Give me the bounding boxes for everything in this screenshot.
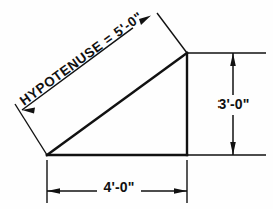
horizontal-arrowhead-left (47, 188, 60, 194)
vertical-arrowhead-bottom (230, 142, 236, 155)
vertical-dimension-label-front: 3'-0" (218, 96, 249, 112)
hypotenuse-label-group: HYPOTENUSE = 5'-0" (17, 9, 146, 109)
vertical-arrowhead-top (230, 53, 236, 66)
horizontal-dimension-label: 4'-0" (103, 179, 134, 195)
horizontal-arrowhead-right (174, 188, 187, 194)
triangle-diagram-svg: HYPOTENUSE = 5'-0" 3'-0" 3'-0" 4'-0" (0, 0, 273, 209)
hypotenuse-extension-line-right (157, 13, 187, 53)
hypotenuse-dimension-label: HYPOTENUSE = 5'-0" (17, 9, 146, 109)
technical-drawing-canvas: HYPOTENUSE = 5'-0" 3'-0" 3'-0" 4'-0" (0, 0, 273, 209)
